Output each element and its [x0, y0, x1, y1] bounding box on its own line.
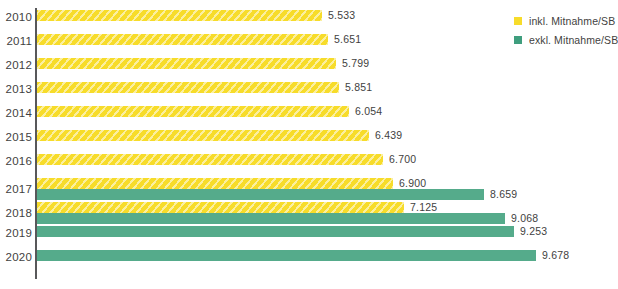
y-axis-tick-label: 2014: [0, 107, 32, 119]
bar-item: 5.851: [37, 82, 613, 93]
bar-item: 6.900: [37, 178, 613, 189]
bar-row: 20209.678: [0, 250, 613, 274]
y-axis-tick-label: 2017: [0, 183, 32, 195]
chart-legend: inkl. Mitnahme/SB exkl. Mitnahme/SB: [514, 11, 618, 49]
bar-item: 9.678: [37, 250, 613, 261]
y-axis-tick-label: 2010: [0, 11, 32, 23]
bar-value-label: 5.533: [328, 9, 355, 21]
bar-value-label: 7.125: [410, 201, 437, 213]
bar-inkl: [37, 58, 336, 69]
bar-item: 6.700: [37, 154, 613, 165]
bar-row: 20146.054: [0, 106, 613, 130]
bar-inkl: [37, 106, 349, 117]
bar-exkl: [37, 213, 505, 224]
legend-swatch-icon-yellow: [514, 17, 522, 25]
legend-item-exkl: exkl. Mitnahme/SB: [514, 30, 618, 49]
y-axis-tick-label: 2019: [0, 227, 32, 239]
bar-inkl: [37, 10, 322, 21]
y-axis-tick-label: 2011: [0, 35, 32, 47]
bar-value-label: 9.253: [520, 225, 547, 237]
bar-row: 20166.700: [0, 154, 613, 178]
bar-row: 20199.253: [0, 226, 613, 250]
bar-value-label: 9.068: [511, 212, 538, 224]
bar-value-label: 5.651: [334, 33, 361, 45]
bar-inkl: [37, 202, 404, 213]
y-axis-tick-label: 2015: [0, 131, 32, 143]
y-axis-tick-label: 2018: [0, 207, 32, 219]
bar-value-label: 6.054: [355, 105, 382, 117]
y-axis-tick-label: 2012: [0, 59, 32, 71]
legend-label-inkl: inkl. Mitnahme/SB: [529, 15, 615, 27]
bar-value-label: 6.900: [399, 177, 426, 189]
bar-row: 20135.851: [0, 82, 613, 106]
bar-item: 6.054: [37, 106, 613, 117]
bar-exkl: [37, 250, 536, 261]
bar-inkl: [37, 130, 369, 141]
bar-row: 20176.9008.659: [0, 178, 613, 202]
bar-value-label: 6.700: [389, 153, 416, 165]
bar-inkl: [37, 82, 339, 93]
bar-value-label: 8.659: [490, 188, 517, 200]
bar-row: 20125.799: [0, 58, 613, 82]
legend-label-exkl: exkl. Mitnahme/SB: [529, 34, 618, 46]
bar-inkl: [37, 34, 328, 45]
y-axis-tick-label: 2013: [0, 83, 32, 95]
bar-item: 5.799: [37, 58, 613, 69]
bar-value-label: 6.439: [375, 129, 402, 141]
bar-item: 6.439: [37, 130, 613, 141]
bar-row: 20156.439: [0, 130, 613, 154]
legend-swatch-icon-green: [514, 36, 522, 44]
bar-exkl: [37, 226, 514, 237]
bar-value-label: 5.851: [345, 81, 372, 93]
y-axis-tick-label: 2020: [0, 251, 32, 263]
bar-item: 9.253: [37, 226, 613, 237]
y-axis-tick-label: 2016: [0, 155, 32, 167]
bar-inkl: [37, 178, 393, 189]
bar-item: 9.068: [37, 213, 613, 224]
legend-item-inkl: inkl. Mitnahme/SB: [514, 11, 618, 30]
bar-inkl: [37, 154, 383, 165]
bar-row: 20187.1259.068: [0, 202, 613, 226]
bar-item: 8.659: [37, 189, 613, 200]
bar-exkl: [37, 189, 484, 200]
bar-value-label: 9.678: [542, 249, 569, 261]
bar-value-label: 5.799: [342, 57, 369, 69]
